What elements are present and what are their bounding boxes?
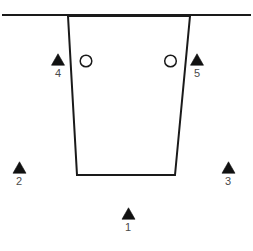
sensor-triangle-3	[222, 162, 235, 173]
sensor-label-5: 5	[187, 68, 207, 79]
sensor-triangle-1	[122, 208, 135, 219]
sensor-label-4: 4	[48, 68, 68, 79]
sensor-label-3: 3	[218, 176, 238, 187]
trapezoid-excavation	[68, 16, 190, 175]
circle-marker-group	[80, 55, 176, 67]
circle-left	[80, 55, 92, 67]
sensor-triangle-2	[13, 162, 26, 173]
sensor-triangle-5	[191, 54, 204, 65]
sensor-label-2: 2	[9, 176, 29, 187]
diagram-canvas: 12345	[0, 0, 253, 251]
diagram-vector-layer	[0, 0, 253, 251]
sensor-label-1: 1	[118, 222, 138, 233]
circle-right	[165, 55, 177, 67]
sensor-triangle-4	[52, 54, 65, 65]
